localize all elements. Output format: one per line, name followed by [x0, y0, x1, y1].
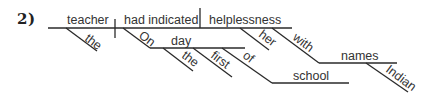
word-on: On: [136, 28, 158, 49]
word-first: first: [208, 48, 233, 72]
word-the-1: the: [82, 31, 104, 53]
word-school: school: [293, 69, 329, 83]
word-object-helplessness: helplessness: [209, 13, 281, 27]
word-names: names: [341, 49, 379, 63]
word-verb-had-indicated: had indicated: [124, 13, 198, 27]
sentence-diagram: teacher had indicated helplessness the O…: [0, 0, 433, 95]
word-day: day: [171, 34, 192, 48]
word-subject-teacher: teacher: [67, 13, 109, 27]
